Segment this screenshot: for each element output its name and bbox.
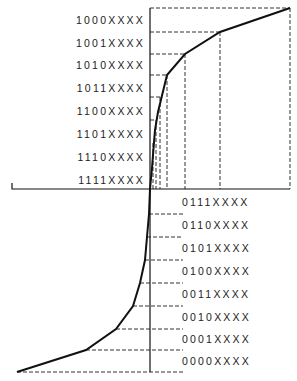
upper-label-1100: 1100XXXX bbox=[77, 105, 145, 117]
upper-grid-lines bbox=[150, 8, 290, 189]
lower-label-0110: 0110XXXX bbox=[182, 219, 250, 231]
lower-label-0100: 0100XXXX bbox=[182, 265, 251, 277]
companding-curve-diagram bbox=[0, 0, 297, 381]
upper-label-1001: 1001XXXX bbox=[76, 37, 145, 49]
upper-label-1111: 1111XXXX bbox=[78, 174, 145, 186]
upper-label-1110: 1110XXXX bbox=[78, 151, 145, 163]
upper-label-1101: 1101XXXX bbox=[77, 128, 145, 140]
lower-label-0000: 0000XXXX bbox=[182, 355, 251, 367]
lower-label-0010: 0010XXXX bbox=[182, 311, 251, 323]
lower-label-0111: 0111XXXX bbox=[182, 196, 249, 208]
upper-label-1010: 1010XXXX bbox=[76, 59, 145, 71]
lower-label-0011: 0011XXXX bbox=[182, 288, 250, 300]
upper-label-1000: 1000XXXX bbox=[76, 14, 145, 26]
lower-label-0101: 0101XXXX bbox=[182, 242, 251, 254]
lower-curve bbox=[17, 189, 150, 372]
upper-label-1011: 1011XXXX bbox=[77, 82, 145, 94]
lower-grid-lines bbox=[17, 214, 183, 372]
lower-label-0001: 0001XXXX bbox=[182, 333, 251, 345]
